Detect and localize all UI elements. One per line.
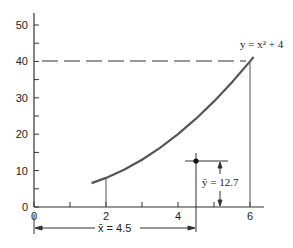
y-tick-label: 10 [16, 165, 28, 177]
centroid-marker [185, 153, 228, 232]
y-tick-label: 40 [16, 55, 28, 67]
y-ticks: 01020304050 [16, 19, 39, 213]
ybar-label: ȳ = 12.7 [202, 176, 239, 188]
x-tick-label: 6 [247, 210, 253, 222]
y-tick-label: 30 [16, 92, 28, 104]
y-tick-label: 20 [16, 128, 28, 140]
xbar-label: x̄ = 4.5 [98, 222, 131, 234]
curve-y-equals-x-squared-plus-4 [92, 57, 254, 183]
centroid-chart: 01020304050 0246 y = x² + 4 ȳ = 12.7 x̄ … [0, 0, 293, 248]
x-tick-label: 4 [175, 210, 181, 222]
centroid-point [193, 158, 198, 163]
y-tick-label: 0 [22, 201, 28, 213]
curve-label: y = x² + 4 [240, 38, 284, 50]
y-tick-label: 50 [16, 19, 28, 31]
x-tick-label: 2 [103, 210, 109, 222]
